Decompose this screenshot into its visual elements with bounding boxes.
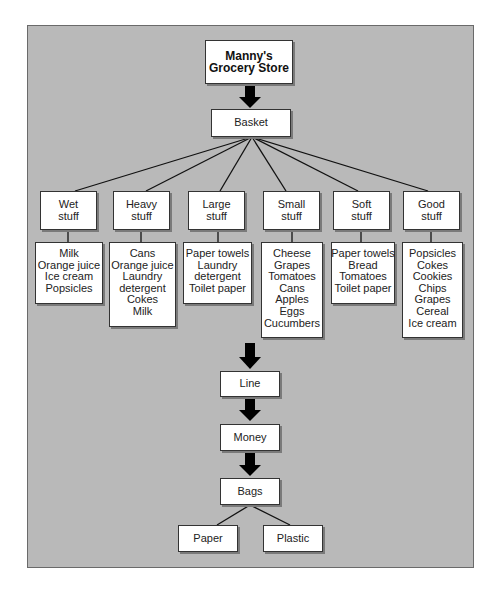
plastic-bag-box: Plastic <box>263 525 323 552</box>
category-label: stuff <box>351 211 372 223</box>
list-item: Milk <box>133 306 153 318</box>
paper-bag-box: Paper <box>178 525 238 552</box>
items-soft: Paper towels Bread Tomatoes Toilet paper <box>331 242 395 304</box>
category-label: Wet <box>59 199 78 211</box>
bags-box: Bags <box>220 478 280 505</box>
category-label: Small <box>278 199 306 211</box>
list-item: Eggs <box>279 306 304 318</box>
items-wet: Milk Orange juice Ice cream Popsicles <box>35 242 103 304</box>
category-label: Good <box>418 199 445 211</box>
items-small: Cheese Grapes Tomatoes Cans Apples Eggs … <box>261 242 323 338</box>
category-label: stuff <box>421 211 442 223</box>
paper-label: Paper <box>193 533 222 545</box>
items-good: Popsicles Cokes Cookies Chips Grapes Cer… <box>402 242 463 338</box>
line-label: Line <box>240 378 261 390</box>
store-name-line2: Grocery Store <box>209 62 289 75</box>
category-small: Small stuff <box>263 191 320 230</box>
list-item: Cereal <box>416 306 448 318</box>
list-item: Cucumbers <box>264 318 320 330</box>
category-label: Large <box>202 199 230 211</box>
category-label: stuff <box>58 211 79 223</box>
bags-label: Bags <box>237 486 262 498</box>
basket-box: Basket <box>211 109 291 137</box>
list-item: Ice cream <box>408 318 456 330</box>
store-box: Manny's Grocery Store <box>205 40 293 84</box>
line-box: Line <box>220 371 280 397</box>
category-good: Good stuff <box>403 191 460 230</box>
category-label: Soft <box>352 199 372 211</box>
list-item: Toilet paper <box>189 283 246 295</box>
category-heavy: Heavy stuff <box>113 191 170 230</box>
category-label: stuff <box>206 211 227 223</box>
money-box: Money <box>220 424 280 451</box>
category-soft: Soft stuff <box>333 191 390 230</box>
list-item: Milk <box>59 248 79 260</box>
money-label: Money <box>233 432 266 444</box>
list-item: Paper towels <box>331 248 395 260</box>
category-wet: Wet stuff <box>40 191 97 230</box>
plastic-label: Plastic <box>277 533 309 545</box>
list-item: Popsicles <box>409 248 456 260</box>
list-item: Paper towels <box>186 248 250 260</box>
category-large: Large stuff <box>188 191 245 230</box>
basket-label: Basket <box>234 117 268 129</box>
category-label: stuff <box>281 211 302 223</box>
list-item: Toilet paper <box>335 283 392 295</box>
items-large: Paper towels Laundry detergent Toilet pa… <box>183 242 252 304</box>
category-label: Heavy <box>126 199 157 211</box>
items-heavy: Cans Orange juice Laundry detergent Coke… <box>109 242 176 327</box>
category-label: stuff <box>131 211 152 223</box>
arrow-down-icon <box>239 84 261 108</box>
list-item: Cans <box>130 248 156 260</box>
list-item: Popsicles <box>45 283 92 295</box>
list-item: Cheese <box>273 248 311 260</box>
